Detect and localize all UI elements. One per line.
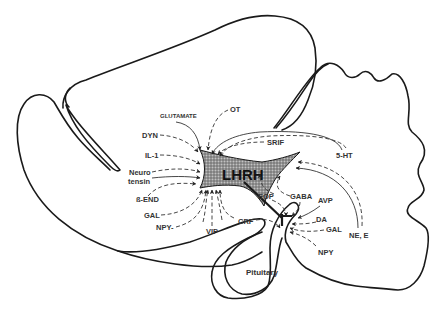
eop-to-me-arrow [272,200,286,216]
gaba-to-lhrh-arrow [277,176,290,196]
input-label-dyn: DYN [142,131,158,140]
input-label-srif: SRIF [267,138,285,147]
lhrh-regulation-diagram: LHRH Pituitary GLUTAMATE OT DYN IL-1 Neu… [0,0,438,312]
input-label-5ht: 5-HT [336,151,353,160]
ot-arrow [208,110,228,150]
il1-arrow [160,155,200,164]
input-label-npy-right: NPY [318,248,333,257]
gal-right-arrow [290,228,324,231]
crf-to-lhrh-arrow [216,190,222,220]
input-label-gaba: GABA [290,192,313,201]
inner-fold-outline [276,64,328,128]
brain-sagittal-diagram: LHRH Pituitary GLUTAMATE OT DYN IL-1 Neu… [0,0,438,312]
input-label-il1: IL-1 [145,151,158,160]
pituitary-label: Pituitary [246,268,279,277]
pituitary-outline [225,232,282,294]
gal-left-arrow [161,190,202,215]
input-label-glutamate: GLUTAMATE [160,113,197,119]
lhrh-label: LHRH [222,166,264,183]
dyn-arrow [160,135,198,152]
neurotensin-arrow-1 [152,169,200,172]
glutamate-arrow [176,122,200,150]
npy-right-arrow [290,232,316,246]
srif-arrow [218,142,264,154]
input-label-ot: OT [230,105,241,114]
crf-lhrh-arrow [220,190,234,218]
input-label-vip: VIP [206,227,218,236]
input-label-ne-e: NE, E [349,231,369,240]
input-label-npy-left: NPY- [156,223,174,232]
input-label-da: DA [316,215,327,224]
input-label-neurotensin-1: Neuro [129,168,151,177]
da-arrow [292,222,316,224]
npy-left-arrow [176,190,206,227]
corpus-callosum-outline [65,88,120,171]
input-label-neurotensin-2: tensin [128,177,151,186]
input-label-gal-right: GAL [326,225,342,234]
input-label-avp: AVP [318,196,333,205]
input-label-gal-left: GAL [144,211,160,220]
input-label-crf: CRF [238,217,254,226]
neurotensin-arrow-2 [152,177,200,179]
input-label-b-end: ß-END [136,195,159,204]
